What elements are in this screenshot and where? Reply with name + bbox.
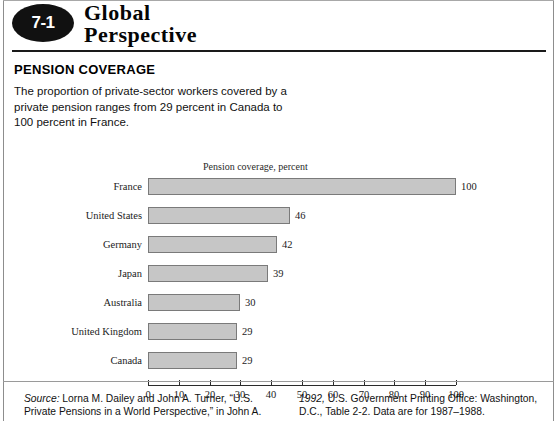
banner-title: Global Perspective [84, 2, 384, 46]
bar [148, 352, 237, 369]
figure-number-badge: 7-1 [12, 4, 74, 42]
chart-row: United Kingdom29 [0, 323, 557, 343]
bar-value-label: 29 [242, 355, 253, 366]
chart-row: Germany42 [0, 236, 557, 256]
bar-value-label: 39 [273, 268, 284, 279]
category-label: France [0, 181, 142, 192]
bar-chart: Pension coverage, percent France100Unite… [0, 150, 557, 380]
category-label: United States [0, 210, 142, 221]
category-label: Canada [0, 355, 142, 366]
category-label: Australia [0, 297, 142, 308]
source-text-left: Lorna M. Dailey and John A. Turner, “U.S… [24, 393, 261, 417]
chart-row: United States46 [0, 207, 557, 227]
figure-number-label: 7-1 [31, 13, 54, 33]
banner-underline [12, 50, 546, 52]
chart-row: France100 [0, 178, 557, 198]
category-label: Japan [0, 268, 142, 279]
bar [148, 265, 268, 282]
section-intro-text: The proportion of private-sector workers… [14, 84, 304, 131]
x-axis-line [148, 385, 456, 386]
bar-value-label: 29 [242, 326, 253, 337]
source-year: 1992, [299, 393, 325, 404]
bar-value-label: 46 [295, 210, 306, 221]
source-text-right: U.S. Government Printing Office: Washing… [299, 393, 537, 417]
source-note-left: Source: Lorna M. Dailey and John A. Turn… [24, 392, 274, 418]
category-label: United Kingdom [0, 326, 142, 337]
bar [148, 236, 277, 253]
bar [148, 294, 240, 311]
chart-row: Japan39 [0, 265, 557, 285]
bar [148, 178, 456, 195]
category-label: Germany [0, 239, 142, 250]
source-label: Source: [24, 393, 60, 404]
source-note-right: 1992, U.S. Government Printing Office: W… [299, 392, 549, 418]
section-headline: PENSION COVERAGE [14, 62, 155, 77]
bar-value-label: 100 [461, 181, 477, 192]
bar-value-label: 42 [282, 239, 293, 250]
chart-row: Australia30 [0, 294, 557, 314]
chart-plot-area: France100United States46Germany42Japan39… [0, 150, 557, 380]
chart-row: Canada29 [0, 352, 557, 372]
bar [148, 323, 237, 340]
bar-value-label: 30 [245, 297, 256, 308]
bar [148, 207, 290, 224]
banner-title-line2: Perspective [84, 24, 384, 46]
figure-page: 7-1 Global Perspective PENSION COVERAGE … [0, 0, 557, 421]
footer-separator [3, 381, 554, 382]
